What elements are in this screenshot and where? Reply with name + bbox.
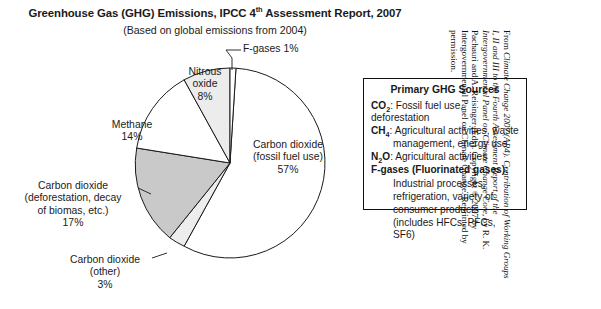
legend-co2-key: CO [371, 100, 386, 111]
figure-root: Greenhouse Gas (GHG) Emissions, IPCC 4th… [0, 0, 601, 309]
pie-label-methane: Methane 14% [90, 119, 174, 144]
pie-label-f-gases: F-gases 1% [243, 43, 298, 55]
pie-label-nitrous-oxide: Nitrous oxide 8% [175, 66, 235, 103]
pie-label-co2-fossil: Carbon dioxide (fossil fuel use) 57% [240, 139, 336, 176]
leader-line-co2-other [152, 253, 167, 258]
legend-ch4-key: CH [371, 125, 386, 136]
pie-label-co2-deforestation: Carbon dioxide (deforestation, decay of … [8, 180, 138, 230]
pie-label-co2-other: Carbon dioxide (other) 3% [62, 254, 148, 291]
attribution-from: From [502, 30, 512, 52]
attribution-text: From Climate Change 2007 (AR4). Contribu… [428, 30, 512, 280]
legend-n2o-key-b: O [382, 151, 390, 162]
